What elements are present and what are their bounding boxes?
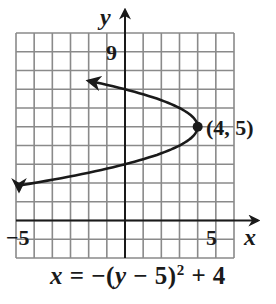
x-tick-5: 5: [206, 225, 217, 250]
eq-lhs: x: [50, 262, 63, 289]
eq-var: y: [115, 262, 127, 289]
y-tick-9: 9: [106, 40, 117, 65]
eq-part: = −(: [63, 262, 115, 289]
x-axis-label: x: [243, 224, 256, 250]
y-axis-label: y: [97, 4, 111, 30]
equation-caption: x = −(y − 5)2 + 4: [0, 262, 276, 290]
graph: y x 9 −5 5 (4, 5): [0, 0, 276, 304]
vertex-label: (4, 5): [206, 115, 254, 140]
vertex-point: [193, 122, 203, 132]
eq-exponent: 2: [177, 262, 185, 278]
eq-part: + 4: [185, 262, 226, 289]
eq-part: − 5): [127, 262, 177, 289]
parabola-curve: [19, 81, 198, 191]
x-tick-neg5: −5: [6, 225, 30, 250]
